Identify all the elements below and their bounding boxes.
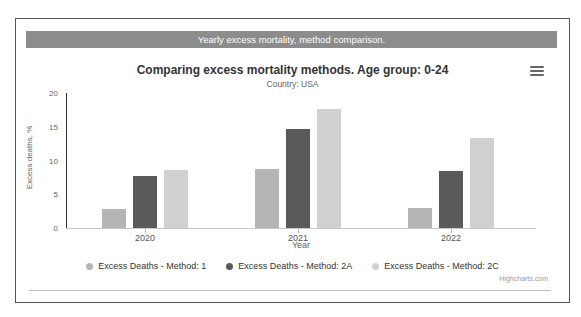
legend-item[interactable]: Excess Deaths - Method: 1	[86, 261, 206, 271]
y-tick-label: 10	[28, 156, 58, 165]
legend-item[interactable]: Excess Deaths - Method: 2A	[226, 261, 352, 271]
bar-2020-series-1[interactable]	[102, 209, 126, 228]
bar-2021-series-1[interactable]	[255, 169, 279, 228]
bar-2022-series-1[interactable]	[408, 208, 432, 228]
x-tick-mark	[145, 229, 146, 233]
legend-label: Excess Deaths - Method: 2A	[238, 261, 352, 271]
x-tick-mark	[298, 229, 299, 233]
legend-label: Excess Deaths - Method: 1	[98, 261, 206, 271]
legend-marker-icon	[372, 263, 379, 270]
bar-2021-series-2[interactable]	[286, 129, 310, 228]
y-tick-label: 0	[28, 224, 58, 233]
legend: Excess Deaths - Method: 1Excess Deaths -…	[16, 261, 569, 271]
legend-label: Excess Deaths - Method: 2C	[384, 261, 499, 271]
legend-marker-icon	[86, 263, 93, 270]
x-tick-label: 2021	[288, 233, 308, 243]
x-tick-mark	[451, 229, 452, 233]
y-tick-label: 5	[28, 190, 58, 199]
bar-2020-series-2[interactable]	[133, 176, 157, 228]
chart-panel: Yearly excess mortality, method comparis…	[15, 18, 570, 303]
bar-2022-series-2[interactable]	[439, 171, 463, 228]
legend-item[interactable]: Excess Deaths - Method: 2C	[372, 261, 499, 271]
x-tick-label: 2020	[135, 233, 155, 243]
x-tick-label: 2022	[441, 233, 461, 243]
plot-area: Excess deaths, % Year 051015202020202120…	[16, 19, 569, 302]
y-tick-label: 20	[28, 89, 58, 98]
page: Yearly excess mortality, method comparis…	[0, 0, 581, 317]
y-axis-line	[66, 93, 67, 228]
legend-marker-icon	[226, 263, 233, 270]
bar-2022-series-3[interactable]	[470, 138, 494, 228]
x-axis-line	[66, 228, 536, 229]
credits-link[interactable]: Highcharts.com	[499, 275, 548, 282]
bar-2021-series-3[interactable]	[317, 109, 341, 228]
bar-2020-series-3[interactable]	[164, 170, 188, 228]
y-tick-label: 15	[28, 122, 58, 131]
bottom-divider	[29, 290, 551, 291]
